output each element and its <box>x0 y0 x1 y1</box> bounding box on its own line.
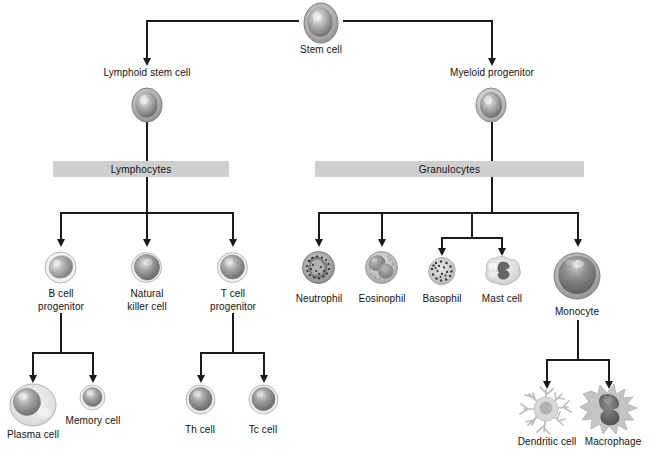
natural-killer-cell-label-line2: killer cell <box>127 301 166 312</box>
arrow-to-basophil <box>438 248 446 256</box>
arrow-to-lymphoid <box>143 58 151 66</box>
plasma-cell-image <box>8 382 58 428</box>
basophil-image <box>427 256 457 286</box>
arrow-to-neutrophil <box>315 239 323 247</box>
stem-cell-label: Stem cell <box>281 44 361 56</box>
arrow-to-myeloid <box>488 58 496 66</box>
macrophage-label: Macrophage <box>574 436 652 448</box>
branch-to-t-cell <box>232 212 234 242</box>
connector-lymphocytes-down <box>146 177 148 213</box>
branch-to-monocyte <box>577 212 579 242</box>
connector-stem-to-left <box>147 20 299 22</box>
branch-to-b-cell <box>60 212 62 242</box>
arrow-to-eosinophil <box>378 239 386 247</box>
b-cell-branch-bar <box>32 352 93 354</box>
granulocytes-bar: Granulocytes <box>315 161 584 177</box>
t-cell-progenitor-label: T cell progenitor <box>198 288 268 313</box>
branch-to-neutrophil <box>318 212 320 242</box>
connector-b-cell-down <box>60 313 62 353</box>
dendritic-cell-image <box>515 382 577 440</box>
arrow-to-b-cell <box>57 239 65 247</box>
mast-cell-label: Mast cell <box>467 293 537 305</box>
monocyte-branch-bar <box>546 359 609 361</box>
macrophage-image <box>578 381 640 437</box>
t-cell-progenitor-label-line2: progenitor <box>210 301 256 312</box>
arrow-to-monocyte <box>574 239 582 247</box>
memory-cell-image <box>78 383 107 412</box>
t-cell-branch-bar <box>200 352 264 354</box>
lymphocytes-bar: Lymphocytes <box>53 161 229 177</box>
eosinophil-image <box>363 249 400 286</box>
th-cell-label: Th cell <box>165 424 235 436</box>
b-cell-progenitor-image <box>42 249 79 286</box>
connector-down-to-lymphoid <box>146 20 148 62</box>
arrow-to-t-cell <box>229 239 237 247</box>
arrow-to-memory-cell <box>89 375 97 383</box>
b-cell-progenitor-label: B cell progenitor <box>26 288 96 313</box>
monocyte-image <box>551 250 603 302</box>
myeloid-progenitor-image <box>472 86 510 124</box>
myeloid-branch-bar <box>318 212 578 214</box>
natural-killer-cell-image <box>128 249 165 286</box>
branch-to-nk-cell <box>146 212 148 242</box>
neutrophil-label: Neutrophil <box>284 293 354 305</box>
neutrophil-image <box>300 249 337 286</box>
mast-cell-image <box>481 255 523 287</box>
stem-cell-image <box>299 1 343 45</box>
subbranch-bar-basophil-mast <box>441 237 502 239</box>
connector-down-to-myeloid <box>491 20 493 62</box>
connector-myeloid-to-bar <box>491 122 493 162</box>
lymphoid-stem-cell-label: Lymphoid stem cell <box>89 67 205 79</box>
connector-t-cell-down <box>232 313 234 353</box>
arrow-to-th-cell <box>197 375 205 383</box>
hematopoiesis-diagram: Stem cell Lymphoid stem cell Myeloid pro… <box>0 0 657 461</box>
lymphoid-stem-cell-image <box>128 86 166 124</box>
myeloid-progenitor-label: Myeloid progenitor <box>434 67 550 79</box>
connector-lymphoid-to-bar <box>146 122 148 162</box>
connector-granulocytes-down <box>491 177 493 213</box>
b-cell-progenitor-label-line1: B cell <box>48 288 73 299</box>
granulocytes-bar-label: Granulocytes <box>419 164 480 175</box>
tc-cell-label: Tc cell <box>228 424 298 436</box>
th-cell-image <box>184 383 217 416</box>
b-cell-progenitor-label-line2: progenitor <box>38 301 84 312</box>
plasma-cell-label: Plasma cell <box>0 429 68 441</box>
lymphocytes-bar-label: Lymphocytes <box>111 164 172 175</box>
connector-stem-to-right <box>343 20 492 22</box>
connector-monocyte-down <box>577 320 579 360</box>
t-cell-progenitor-image <box>214 249 251 286</box>
monocyte-label: Monocyte <box>542 306 612 318</box>
branch-to-eosinophil <box>381 212 383 242</box>
memory-cell-label: Memory cell <box>58 415 128 427</box>
natural-killer-cell-label: Natural killer cell <box>112 288 182 313</box>
arrow-to-tc-cell <box>260 375 268 383</box>
tc-cell-image <box>247 383 280 416</box>
subbranch-stem-basophil-mast <box>471 212 473 238</box>
natural-killer-cell-label-line1: Natural <box>131 288 164 299</box>
t-cell-progenitor-label-line1: T cell <box>221 288 245 299</box>
arrow-to-nk-cell <box>143 239 151 247</box>
